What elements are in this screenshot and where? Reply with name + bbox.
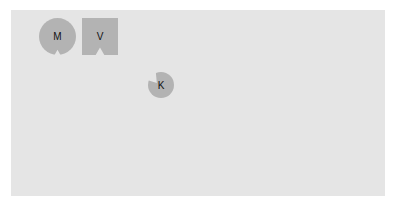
notched-circle-m: M: [39, 18, 76, 55]
shape-label-v: V: [97, 31, 104, 42]
shape-label-k: K: [158, 80, 165, 91]
diagram-canvas: M V K: [11, 10, 385, 196]
notched-circle-k: K: [148, 72, 174, 98]
notched-square-v: V: [82, 18, 118, 55]
shape-label-m: M: [53, 31, 61, 42]
